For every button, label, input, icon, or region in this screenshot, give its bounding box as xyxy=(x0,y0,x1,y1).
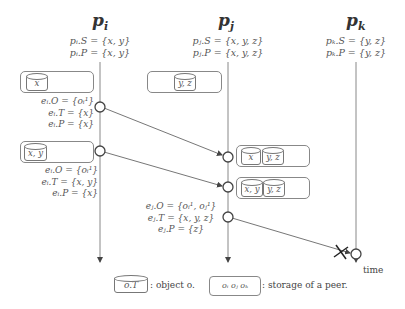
object-xy: x, y xyxy=(24,145,47,161)
object-yz: y, z xyxy=(262,149,284,165)
storage-pj-after-2: x, y y, z xyxy=(236,177,310,199)
object-yz: y, z xyxy=(263,181,285,197)
peer-k-title: pk xyxy=(346,10,366,33)
storage-pj-initial: y, z xyxy=(147,71,222,93)
legend-storage-box: oᵢ oⱼ oₖ xyxy=(209,276,261,296)
legend-object-box: o.T xyxy=(114,277,148,293)
peer-j-title: pj xyxy=(218,10,234,33)
peer-k-meta: pₖ.S = {y, z}pₖ.P = {y, z} xyxy=(316,35,396,59)
object-x: x xyxy=(241,149,261,165)
legend-storage-text: : storage of a peer. xyxy=(262,280,348,290)
peer-i-meta: pᵢ.S = {x, y}pᵢ.P = {x, y} xyxy=(60,35,140,59)
peer-i-title: pi xyxy=(92,10,108,33)
event-ei-2-label: eᵢ.O = {oᵢ¹}eᵢ.T = {x, y}eᵢ.P = {x} xyxy=(20,165,98,200)
legend-object: o.T xyxy=(112,274,152,294)
peer-j-meta: pⱼ.S = {x, y, z}pⱼ.P = {x, y, z} xyxy=(183,35,273,59)
event-ei-1-label: eᵢ.O = {oᵢ¹}eᵢ.T = {x}eᵢ.P = {x} xyxy=(20,96,94,131)
storage-pj-after-1: x y, z xyxy=(236,145,310,167)
object-x: x xyxy=(26,75,48,91)
storage-pi-second: x, y xyxy=(20,141,94,163)
storage-pi-initial: x xyxy=(20,71,94,93)
object-yz: y, z xyxy=(174,75,196,91)
event-ej-1-label: eⱼ.O = {oᵢ¹, oⱼ¹}eⱼ.T = {x, y, z}eⱼ.P = … xyxy=(140,201,222,236)
legend-object-text: : object o. xyxy=(150,280,195,290)
time-axis-label: time xyxy=(363,265,383,275)
object-xy: x, y xyxy=(241,181,263,197)
